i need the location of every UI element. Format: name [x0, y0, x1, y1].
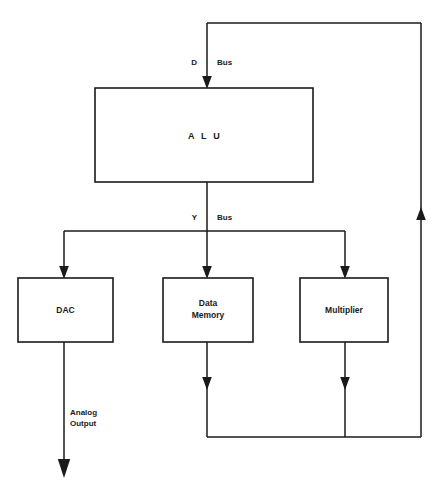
block-dac-label: DAC	[56, 305, 74, 315]
feedback-up-arrow-icon	[416, 207, 426, 220]
analog-output-label-line2: Output	[70, 419, 97, 428]
block-data-memory-label-line1: Data	[199, 298, 218, 308]
d-bus-arrow-icon	[202, 76, 212, 89]
y-bus-data-memory-arrow-icon	[202, 266, 212, 279]
block-alu-label: A L U	[188, 131, 222, 141]
y-bus-label-right: Bus	[217, 213, 233, 222]
block-data-memory-label-line2: Memory	[192, 310, 225, 320]
d-bus-label-right: Bus	[217, 58, 233, 67]
analog-output-label-line1: Analog	[70, 408, 97, 417]
data-memory-output-arrow-icon	[202, 377, 212, 390]
d-bus-label-left: D	[191, 58, 197, 67]
block-diagram-svg: D Bus A L U Y Bus DAC Analog Output Data	[0, 0, 439, 490]
block-diagram-canvas: D Bus A L U Y Bus DAC Analog Output Data	[0, 0, 439, 490]
y-bus-dac-arrow-icon	[59, 266, 69, 279]
y-bus-label-left: Y	[192, 213, 198, 222]
y-bus-multiplier-arrow-icon	[340, 266, 350, 279]
multiplier-output-arrow-icon	[340, 377, 350, 390]
analog-output-arrow-icon	[58, 459, 70, 478]
block-multiplier-label: Multiplier	[325, 305, 363, 315]
